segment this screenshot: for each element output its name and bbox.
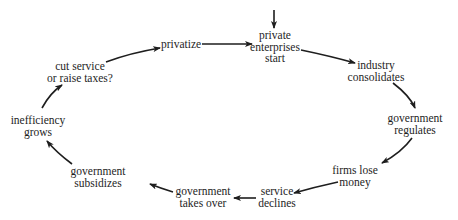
node-text-line: private — [250, 30, 300, 42]
arrow-cut-to-privatize — [106, 48, 160, 62]
arrow-consolidates-to-regulates — [393, 83, 415, 108]
arrow-regulates-to-firms — [382, 138, 412, 163]
node-government-regulates: government regulates — [388, 113, 443, 136]
node-inefficiency-grows: inefficiency grows — [11, 115, 66, 138]
node-text-line: grows — [11, 127, 66, 139]
node-text-line: government — [388, 113, 443, 125]
node-text-line: cut service — [47, 61, 113, 73]
node-text-line: inefficiency — [11, 115, 66, 127]
arrow-subsidizes-to-inefficiency — [47, 141, 72, 164]
node-privatize: privatize — [161, 39, 201, 51]
privatization-cycle-diagram: private enterprises start industry conso… — [0, 0, 458, 220]
node-text-line: industry — [348, 60, 405, 72]
node-text-line: government — [176, 186, 231, 198]
node-text-line: service — [258, 186, 296, 198]
node-government-subsidizes: government subsidizes — [71, 166, 126, 189]
node-text-line: declines — [258, 198, 296, 210]
node-text-line: start — [250, 53, 300, 65]
node-industry-consolidates: industry consolidates — [348, 60, 405, 83]
node-text-line: regulates — [388, 125, 443, 137]
node-text-line: takes over — [176, 198, 231, 210]
node-text-line: privatize — [161, 39, 201, 51]
node-text-line: or raise taxes? — [47, 73, 113, 85]
node-text-line: money — [332, 177, 378, 189]
node-private-enterprises-start: private enterprises start — [250, 30, 300, 65]
node-text-line: government — [71, 166, 126, 178]
node-text-line: subsidizes — [71, 178, 126, 190]
node-service-declines: service declines — [258, 186, 296, 209]
node-government-takes-over: government takes over — [176, 186, 231, 209]
node-firms-lose-money: firms lose money — [332, 165, 378, 188]
arrow-takeover-to-subsidizes — [150, 184, 173, 192]
arrow-inefficiency-to-cut — [42, 85, 62, 108]
node-cut-service-or-raise-taxes: cut service or raise taxes? — [47, 61, 113, 84]
node-text-line: consolidates — [348, 72, 405, 84]
node-text-line: firms lose — [332, 165, 378, 177]
